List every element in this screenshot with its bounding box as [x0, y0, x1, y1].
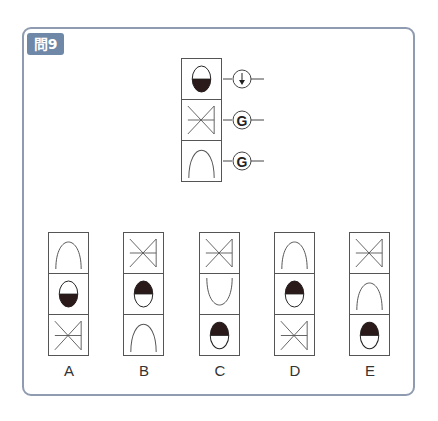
svg-text:G: G	[237, 154, 248, 170]
option-b-figure[interactable]	[123, 232, 164, 356]
option-d-label[interactable]: D	[274, 362, 316, 379]
option-a-label[interactable]: A	[48, 362, 90, 379]
valve-symbol-icon	[350, 233, 389, 274]
svg-text:G: G	[237, 113, 248, 129]
half-filled-oval-top-icon	[350, 315, 389, 356]
option-c-label[interactable]: C	[199, 362, 241, 379]
operator-column: G G	[223, 58, 273, 182]
u-shape-icon	[200, 274, 239, 315]
half-filled-oval-bottom-icon	[49, 274, 88, 315]
option-c-figure[interactable]	[199, 232, 240, 356]
valve-symbol-icon	[200, 233, 239, 274]
valve-symbol-icon	[124, 233, 163, 274]
arch-icon	[124, 315, 163, 356]
problem-figure-stack	[181, 58, 222, 182]
option-b-label[interactable]: B	[123, 362, 165, 379]
option-e-figure[interactable]	[349, 232, 390, 356]
arch-icon	[275, 233, 314, 274]
down-arrow-operator-icon	[223, 69, 273, 89]
half-filled-oval-top-icon	[200, 315, 239, 356]
question-number-badge: 問9	[27, 33, 64, 55]
option-e-label[interactable]: E	[349, 362, 391, 379]
half-filled-oval-top-icon	[124, 274, 163, 315]
arch-icon	[350, 274, 389, 315]
g-operator-icon: G	[223, 151, 273, 171]
valve-symbol-icon	[275, 315, 314, 356]
valve-symbol-icon	[182, 100, 221, 141]
valve-symbol-icon	[49, 315, 88, 356]
option-a-figure[interactable]	[48, 232, 89, 356]
g-operator-icon: G	[223, 110, 273, 130]
half-filled-oval-bottom-icon	[182, 59, 221, 100]
half-filled-oval-top-icon	[275, 274, 314, 315]
option-d-figure[interactable]	[274, 232, 315, 356]
arch-icon	[182, 141, 221, 182]
arch-icon	[49, 233, 88, 274]
